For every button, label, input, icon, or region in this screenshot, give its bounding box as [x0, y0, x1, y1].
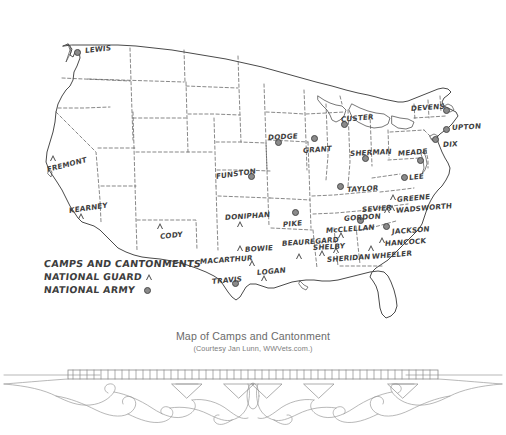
national-army-circle-icon: [144, 287, 151, 294]
legend-title: CAMPS AND CANTONMENTS: [43, 258, 202, 269]
caption-credit: (Courtesy Jan Lunn, WWVets.com.): [0, 344, 506, 353]
caption-title: Map of Camps and Cantonment: [0, 330, 506, 342]
legend-title-row: CAMPS AND CANTONMENTS: [44, 258, 204, 271]
camps-map-figure: LEWISFREMONTKEARNEYCODYFUNSTONDONIPHANDO…: [0, 0, 506, 435]
national-guard-triangle-icon: [147, 274, 153, 280]
legend-row-national-guard: NATIONAL GUARD: [44, 271, 204, 284]
legend-row-national-army: NATIONAL ARMY: [44, 284, 204, 297]
legend-label-national-guard: NATIONAL GUARD: [43, 271, 142, 282]
map-legend: CAMPS AND CANTONMENTS NATIONAL GUARD NAT…: [44, 258, 204, 297]
decorative-divider: [0, 362, 506, 426]
legend-label-national-army: NATIONAL ARMY: [43, 284, 135, 295]
figure-caption: Map of Camps and Cantonment (Courtesy Ja…: [0, 330, 506, 353]
